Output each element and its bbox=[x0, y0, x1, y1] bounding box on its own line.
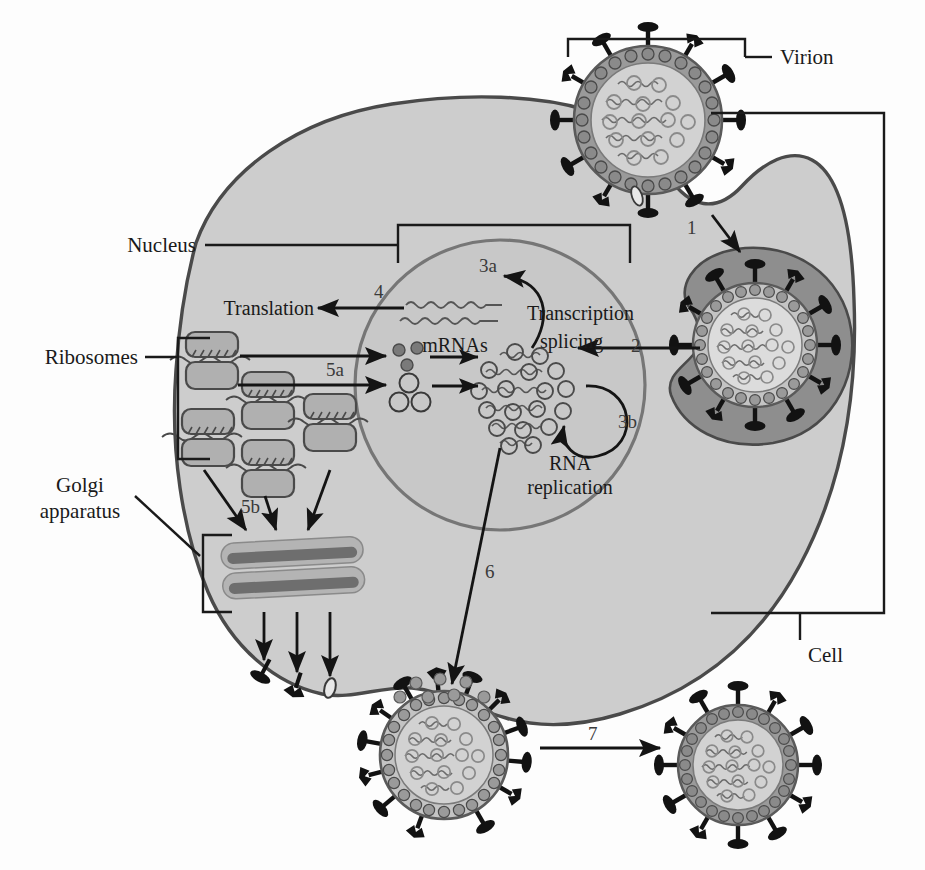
figure-canvas: Virion Cell Nucleus Ribosomes Golgi appa… bbox=[0, 0, 925, 870]
step-label-3a: 3a bbox=[479, 255, 498, 276]
label-nucleus: Nucleus bbox=[127, 233, 196, 257]
label-golgi-line2: apparatus bbox=[40, 499, 120, 523]
label-mrnas: mRNAs bbox=[422, 334, 488, 356]
label-translation: Translation bbox=[224, 297, 314, 319]
label-ribosomes: Ribosomes bbox=[45, 345, 138, 369]
released-virion bbox=[654, 681, 822, 849]
step-label-4: 4 bbox=[374, 281, 384, 302]
step-label-7: 7 bbox=[588, 723, 598, 744]
label-golgi-line1: Golgi bbox=[56, 473, 104, 497]
label-cell: Cell bbox=[808, 643, 843, 667]
label-splicing: splicing bbox=[540, 330, 603, 353]
step-label-2: 2 bbox=[631, 335, 641, 356]
step-label-1: 1 bbox=[687, 217, 697, 238]
step-label-5b: 5b bbox=[241, 496, 260, 517]
virus-replication-diagram: Virion Cell Nucleus Ribosomes Golgi appa… bbox=[0, 0, 925, 870]
step-label-6: 6 bbox=[485, 561, 495, 582]
label-rna-line2: replication bbox=[527, 476, 613, 499]
step-label-3b: 3b bbox=[618, 411, 637, 432]
step-label-5a: 5a bbox=[326, 359, 345, 380]
label-rna-line1: RNA bbox=[549, 452, 592, 474]
viral-capsid-interior bbox=[591, 63, 705, 177]
endosome-virion bbox=[669, 248, 852, 445]
label-transcription: Transcription bbox=[527, 302, 634, 325]
label-virion: Virion bbox=[780, 45, 834, 69]
